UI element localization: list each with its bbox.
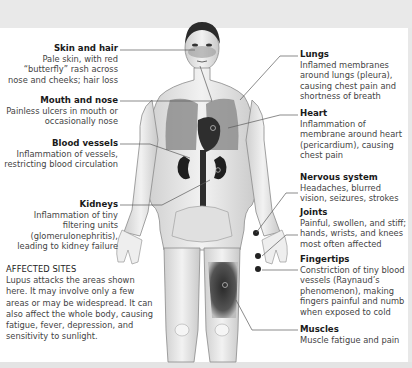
label-heading: Mouth and nose bbox=[6, 95, 118, 106]
label-text: Pale skin, with red “butterfly” rash acr… bbox=[8, 54, 118, 85]
caption-text: Lupus attacks the areas shown here. It m… bbox=[6, 275, 153, 341]
label-lungs: Lungs Inflamed membranes around lungs (p… bbox=[300, 49, 408, 102]
affected-sites-caption: AFFECTED SITES Lupus attacks the areas s… bbox=[6, 264, 154, 342]
label-heading: Muscles bbox=[300, 324, 408, 335]
label-heading: Fingertips bbox=[300, 254, 408, 265]
label-text: Inflamed membranes around lungs (pleura)… bbox=[300, 60, 396, 102]
label-fingertips: Fingertips Constriction of tiny blood ve… bbox=[300, 254, 408, 318]
label-text: Headaches, blurred vision, seizures, str… bbox=[300, 183, 399, 204]
label-heading: Blood vessels bbox=[2, 138, 118, 149]
fingertip-marker bbox=[255, 266, 261, 272]
label-kidneys: Kidneys Inflammation of tiny filtering u… bbox=[6, 199, 118, 252]
label-mouth-and-nose: Mouth and nose Painless ulcers in mouth … bbox=[6, 95, 118, 127]
fingertip-marker bbox=[255, 253, 261, 259]
label-text: Constriction of tiny blood vessels (Rayn… bbox=[300, 265, 405, 317]
label-heading: Lungs bbox=[300, 49, 408, 60]
label-text: Painless ulcers in mouth or occasionally… bbox=[6, 106, 118, 127]
label-text: Painful, swollen, and stiff; hands, wris… bbox=[300, 218, 406, 249]
label-text: Muscle fatigue and pain bbox=[300, 335, 399, 345]
caption-heading: AFFECTED SITES bbox=[6, 264, 154, 275]
label-joints: Joints Painful, swollen, and stiff; hand… bbox=[300, 207, 408, 249]
label-heading: Heart bbox=[300, 108, 408, 119]
thigh-muscle bbox=[208, 262, 238, 318]
label-text: Inflammation of tiny filtering units (gl… bbox=[17, 210, 118, 252]
label-text: Inflammation of vessels, restricting blo… bbox=[4, 149, 118, 170]
label-heading: Nervous system bbox=[300, 172, 408, 183]
label-blood-vessels: Blood vessels Inflammation of vessels, r… bbox=[2, 138, 118, 170]
label-text: Inflammation of membrane around heart (p… bbox=[300, 119, 402, 161]
left-leg bbox=[164, 248, 200, 362]
right-arm bbox=[246, 100, 280, 236]
label-nervous-system: Nervous system Headaches, blurred vision… bbox=[300, 172, 408, 204]
label-heading: Skin and hair bbox=[6, 43, 118, 54]
label-heading: Kidneys bbox=[6, 199, 118, 210]
left-arm bbox=[124, 100, 158, 236]
label-heart: Heart Inflammation of membrane around he… bbox=[300, 108, 408, 161]
pelvis bbox=[172, 206, 232, 242]
label-heading: Joints bbox=[300, 207, 408, 218]
label-skin-and-hair: Skin and hair Pale skin, with red “butte… bbox=[6, 43, 118, 85]
label-muscles: Muscles Muscle fatigue and pain bbox=[300, 324, 408, 345]
head bbox=[185, 22, 220, 70]
